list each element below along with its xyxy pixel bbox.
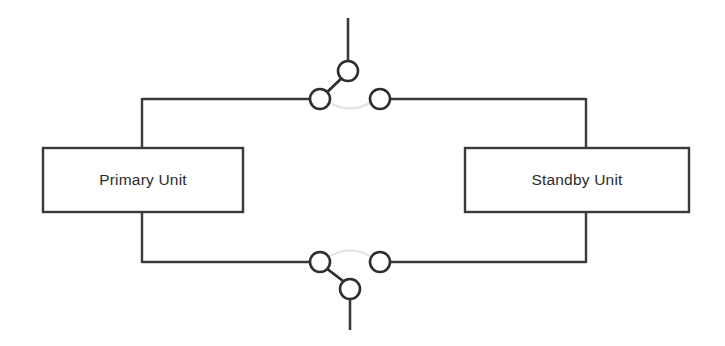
top-switch-right-contact[interactable] [370, 89, 390, 109]
standby-unit-block[interactable]: Standby Unit [465, 148, 689, 212]
top-switch-left-contact[interactable] [310, 89, 330, 109]
bottom-switch-ghost-arc [330, 251, 370, 257]
bottom-switch-pivot-contact[interactable] [340, 279, 360, 299]
bottom-switch-right-contact[interactable] [370, 252, 390, 272]
standby-unit-label: Standby Unit [531, 171, 623, 188]
redundancy-switch-diagram: Primary Unit Standby Unit [0, 0, 725, 346]
bottom-switch-left-contact[interactable] [310, 252, 330, 272]
diagram-canvas: Primary Unit Standby Unit [0, 0, 725, 346]
top-switch-ghost-arc [330, 103, 370, 109]
top-switch-pivot-contact[interactable] [338, 61, 358, 81]
bottom-changeover-switch[interactable] [310, 251, 390, 331]
primary-unit-block[interactable]: Primary Unit [43, 148, 243, 212]
top-changeover-switch[interactable] [310, 18, 390, 109]
primary-unit-label: Primary Unit [99, 171, 187, 188]
